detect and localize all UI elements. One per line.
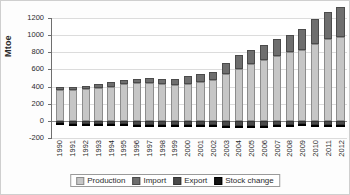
y-tick [48,138,52,139]
bar-column[interactable] [334,18,347,138]
legend-item[interactable]: Export [173,176,207,185]
x-tick-label: 1996 [132,140,141,157]
bar-segment-import [286,35,294,52]
x-label-cell: 1999 [168,140,181,170]
bar-column[interactable] [92,18,105,138]
plot-area [51,18,347,138]
bar-segment-production [82,89,90,121]
legend-item[interactable]: Production [76,176,125,185]
bar-segment-stock [56,123,64,125]
bar-column[interactable] [309,18,322,138]
x-label-cell: 2009 [296,140,309,170]
bar-segment-production [196,82,204,121]
y-tick-label: 1000 [10,31,44,39]
bar-segment-import [222,63,230,74]
bar-segment-import [273,39,281,56]
x-tick-label: 2004 [234,140,243,157]
x-label-cell: 1997 [142,140,155,170]
bar-segment-production [222,74,230,121]
bar-segment-import [145,78,153,83]
bar-segment-production [260,60,268,121]
bar-column[interactable] [181,18,194,138]
bar-column[interactable] [54,18,67,138]
x-tick-label: 2012 [336,140,345,157]
bar-segment-import [336,7,344,37]
bar-segment-import [120,80,128,84]
y-tick-label: 400 [10,83,44,91]
legend-swatch-export [173,177,181,185]
bar-column[interactable] [321,18,334,138]
bar-segment-production [120,84,128,121]
bar-segment-stock [184,125,192,127]
x-label-cell: 2011 [321,140,334,170]
x-label-cell: 1994 [104,140,117,170]
bar-segment-import [311,19,319,44]
bar-segment-production [56,90,64,121]
x-tick-label: 1993 [93,140,102,157]
bar-column[interactable] [270,18,283,138]
bar-segment-production [247,64,255,121]
bar-column[interactable] [283,18,296,138]
bar-column[interactable] [220,18,233,138]
bar-column[interactable] [118,18,131,138]
bar-segment-import [56,87,64,90]
bar-column[interactable] [156,18,169,138]
bar-column[interactable] [67,18,80,138]
bar-segment-production [273,56,281,121]
bar-column[interactable] [207,18,220,138]
x-label-cell: 1991 [66,140,79,170]
bar-segment-production [336,37,344,121]
x-tick-label: 2000 [183,140,192,157]
chart-container: Mtoe 120010008006004002000-200 199019911… [0,0,350,195]
x-tick-label: 1990 [55,140,64,157]
bar-column[interactable] [296,18,309,138]
bar-column[interactable] [245,18,258,138]
bar-segment-stock [311,125,319,127]
x-tick-label: 2006 [259,140,268,157]
bar-segment-import [158,79,166,84]
bar-segment-import [298,29,306,50]
legend-item[interactable]: Stock change [214,176,273,185]
bar-column[interactable] [258,18,271,138]
x-tick-label: 2009 [298,140,307,157]
bar-column[interactable] [169,18,182,138]
bar-segment-production [286,52,294,121]
bar-segment-stock [336,125,344,127]
bar-column[interactable] [232,18,245,138]
x-label-cell: 2010 [309,140,322,170]
legend-item[interactable]: Import [132,176,166,185]
x-label-cell: 2002 [206,140,219,170]
bar-column[interactable] [130,18,143,138]
legend-label: Import [143,176,166,185]
x-label-cell: 1998 [155,140,168,170]
x-label-cell: 2005 [245,140,258,170]
bar-segment-production [209,80,217,121]
bar-segment-stock [107,124,115,126]
x-tick-label: 2002 [208,140,217,157]
bar-column[interactable] [143,18,156,138]
bar-segment-stock [82,124,90,126]
bar-segment-stock [196,125,204,127]
x-tick-label: 1997 [144,140,153,157]
bar-segment-stock [235,126,243,128]
x-label-cell: 2004 [232,140,245,170]
bar-column[interactable] [79,18,92,138]
x-tick-label: 2007 [272,140,281,157]
bar-segment-production [94,88,102,121]
x-axis-labels: 1990199119921993199419951996199719981999… [51,140,347,170]
gridline [52,138,347,139]
y-tick-label: -200 [10,134,44,142]
x-tick-label: 2010 [311,140,320,157]
plot-wrapper: 120010008006004002000-200 [51,18,347,138]
bar-column[interactable] [105,18,118,138]
bar-segment-production [158,84,166,120]
bar-segment-production [133,83,141,121]
bar-column[interactable] [194,18,207,138]
bar-segment-import [209,72,217,81]
x-label-cell: 2008 [283,140,296,170]
x-tick-label: 2008 [285,140,294,157]
bar-segment-stock [260,126,268,128]
bar-segment-stock [209,125,217,127]
bar-segment-stock [222,126,230,128]
bar-segment-import [82,86,90,89]
